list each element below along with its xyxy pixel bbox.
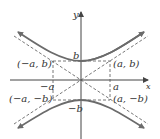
hyperbola-diagram: y x b −b −a a (−a, b) (a, b) (−a, −b) (a… <box>0 0 160 139</box>
point-a-b-label: (a, b) <box>113 58 140 69</box>
point-neg-a-neg-b-label: (−a, −b) <box>9 93 52 104</box>
point-a-neg-b-label: (a, −b) <box>113 93 148 104</box>
y-axis-label: y <box>72 9 79 20</box>
hyperbola-lower-branch-right <box>81 100 144 128</box>
neg-b-label: −b <box>68 103 83 114</box>
point-neg-a-b-label: (−a, b) <box>17 58 52 69</box>
neg-a-label: −a <box>40 81 54 92</box>
hyperbola-upper-branch-right-arrow <box>81 32 144 61</box>
b-label: b <box>73 50 79 61</box>
a-label: a <box>113 81 119 92</box>
x-axis-label: x <box>146 82 151 91</box>
